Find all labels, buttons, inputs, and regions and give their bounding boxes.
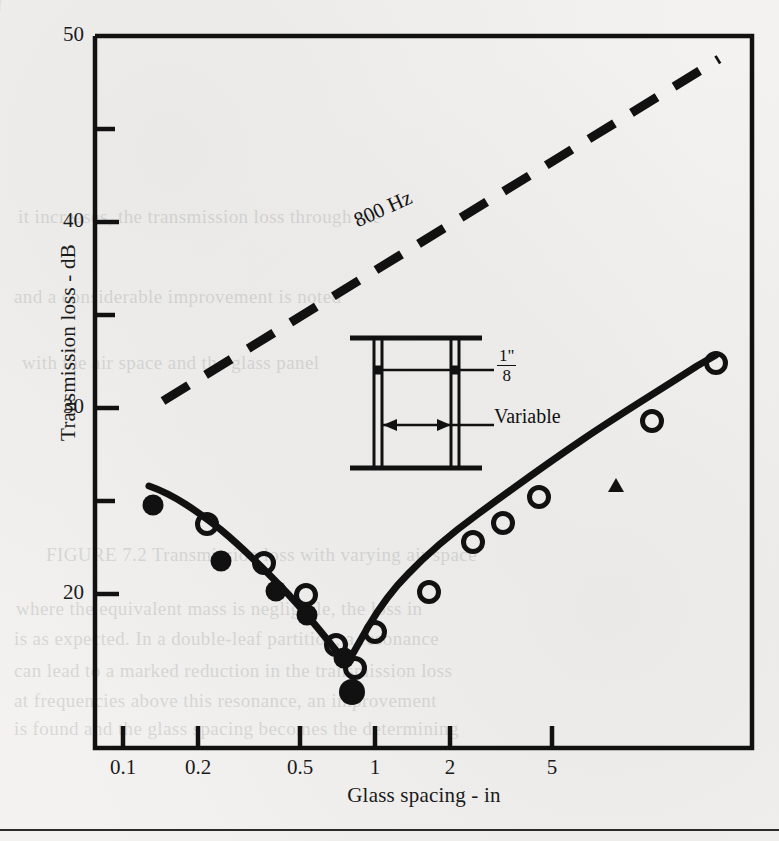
variable-arrow-left [383,419,397,431]
y-tick-label-20: 20 [32,580,84,605]
page-bottom-rule [0,829,779,831]
y-axis-title: Transmission loss - dB [56,213,81,473]
inset-thickness-denominator: 8 [497,366,516,384]
data-point-open [464,533,483,552]
inset-thickness-numerator: 1" [497,347,516,366]
data-point-filled [143,495,164,516]
x-tick-label-0.5: 0.5 [270,755,330,780]
inset-gap-label: Variable [494,405,561,428]
x-tick-label-0.1: 0.1 [93,755,153,780]
data-point-open [297,586,316,605]
filled-triangle-marker [608,478,624,492]
data-point-open [420,583,439,602]
data-point-filled [297,605,318,626]
transmission-loss-chart: 50 40 30 20 0.1 0.2 0.5 1 2 5 Transmissi… [0,0,779,841]
y-axis-major-ticks [95,222,119,594]
inset-thickness-label: 1" 8 [497,347,516,384]
dashed-800hz-line [163,59,719,401]
data-point-triangle [608,478,624,492]
x-tick-label-0.2: 0.2 [168,755,228,780]
data-point-open [530,488,549,507]
thickness-cap-right [451,366,460,375]
figure-page: it increases, the transmission loss thro… [0,0,779,841]
x-axis-ticks [123,726,552,748]
data-point-open [346,659,365,678]
x-tick-label-5: 5 [522,755,582,780]
x-tick-label-2: 2 [420,755,480,780]
thickness-cap-left [374,366,383,375]
fitted-transmission-curve [149,355,716,664]
variable-arrow-right [437,419,451,431]
filled-circle-markers [143,495,366,706]
data-point-open [643,412,662,431]
x-axis-title: Glass spacing - in [95,783,753,808]
inset-glazing-diagram [350,336,494,470]
data-point-filled [266,581,287,602]
x-tick-label-1: 1 [345,755,405,780]
data-point-filled [211,551,232,572]
y-tick-label-50: 50 [32,22,84,47]
plot-canvas [0,0,779,841]
data-point-filled-minimum [339,679,365,705]
y-axis-minor-ticks [95,129,115,501]
data-point-open [494,514,513,533]
